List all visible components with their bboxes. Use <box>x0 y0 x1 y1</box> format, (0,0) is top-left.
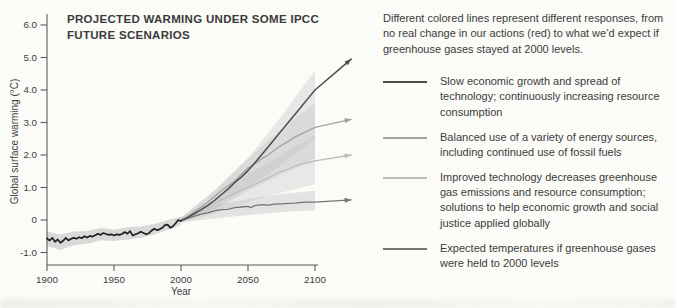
x-axis-label: Year <box>151 286 211 297</box>
band-historical-uncertainty <box>47 217 181 250</box>
figure: -1.001.02.03.04.05.06.019001950200020502… <box>0 0 676 308</box>
series-arrowhead-balanced-energy <box>344 118 351 123</box>
chart-canvas: -1.001.02.03.04.05.06.019001950200020502… <box>0 0 372 308</box>
legend-line-swatch <box>383 74 427 83</box>
legend-label: Balanced use of a variety of energy sour… <box>440 130 669 160</box>
legend-item-3: Expected temperatures if greenhouse gase… <box>383 241 669 271</box>
legend-line-swatch <box>383 241 427 250</box>
y-tick-label: 1.0 <box>23 182 37 193</box>
y-tick-label: 0 <box>32 214 38 225</box>
y-tick-label: -1.0 <box>20 247 37 258</box>
y-axis-label: Global surface warming (°C) <box>9 72 20 212</box>
legend-item-2: Improved technology decreases greenhouse… <box>383 170 669 231</box>
y-tick-label: 4.0 <box>23 84 37 95</box>
chart-title: PROJECTED WARMING UNDER SOME IPCC FUTURE… <box>67 11 352 44</box>
x-tick-label: 2100 <box>304 274 326 285</box>
x-tick-label: 1900 <box>36 274 58 285</box>
legend-line-swatch <box>383 170 427 179</box>
intro-text: Different colored lines represent differ… <box>383 11 669 57</box>
y-tick-label: 6.0 <box>23 19 37 30</box>
scenario-legend: Slow economic growth and spread of techn… <box>383 74 669 271</box>
legend-label: Slow economic growth and spread of techn… <box>440 74 669 120</box>
x-tick-label: 1950 <box>103 274 125 285</box>
legend-label: Expected temperatures if greenhouse gase… <box>440 241 669 271</box>
legend-line-swatch <box>383 130 427 139</box>
legend-label: Improved technology decreases greenhouse… <box>440 170 669 231</box>
y-tick-label: 5.0 <box>23 52 37 63</box>
side-panel: Different colored lines represent differ… <box>383 11 669 271</box>
series-arrowhead-improved-tech <box>344 154 351 159</box>
scan-artifact <box>0 299 676 308</box>
legend-item-0: Slow economic growth and spread of techn… <box>383 74 669 120</box>
x-tick-label: 2000 <box>170 274 192 285</box>
y-tick-label: 2.0 <box>23 149 37 160</box>
chart-svg: -1.001.02.03.04.05.06.019001950200020502… <box>0 0 372 308</box>
chart-title-line1: PROJECTED WARMING UNDER SOME IPCC <box>67 11 352 27</box>
y-tick-label: 3.0 <box>23 117 37 128</box>
chart-title-line2: FUTURE SCENARIOS <box>67 27 352 43</box>
legend-item-1: Balanced use of a variety of energy sour… <box>383 130 669 160</box>
x-tick-label: 2050 <box>237 274 259 285</box>
warming-chart: -1.001.02.03.04.05.06.019001950200020502… <box>0 0 372 308</box>
